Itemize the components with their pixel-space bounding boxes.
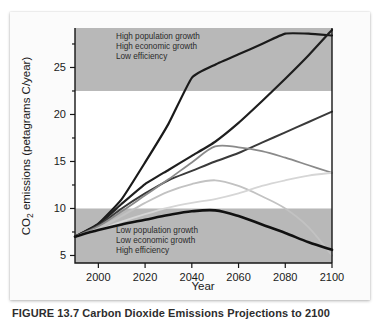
annotation-upper-line-2: High economic growth bbox=[116, 42, 197, 51]
co2-emissions-line-chart: High population growth High economic gro… bbox=[0, 0, 380, 321]
svg-text:CO2 emissions (petagrams C/yea: CO2 emissions (petagrams C/year) bbox=[20, 57, 35, 236]
x-tick-label-2080: 2080 bbox=[273, 271, 297, 283]
annotation-upper-line-1: High population growth bbox=[116, 32, 200, 41]
y-axis-title-prefix: CO bbox=[20, 218, 32, 235]
y-axis-title: CO2 emissions (petagrams C/year) bbox=[20, 57, 35, 236]
y-axis-ticks: 510152025 bbox=[54, 44, 75, 262]
x-axis-title: Year bbox=[191, 280, 214, 292]
annotation-lower-line-1: Low population growth bbox=[116, 226, 198, 235]
x-tick-label-2100: 2100 bbox=[320, 271, 344, 283]
y-axis-title-suffix: emissions (petagrams C/year) bbox=[20, 57, 32, 214]
y-tick-label-25: 25 bbox=[54, 61, 66, 73]
annotation-lower-line-2: Low economic growth bbox=[116, 236, 196, 245]
x-axis-ticks: 200020202040206020802100 bbox=[86, 263, 344, 283]
y-tick-label-20: 20 bbox=[54, 108, 66, 120]
x-tick-label-2020: 2020 bbox=[133, 271, 157, 283]
y-tick-label-5: 5 bbox=[60, 249, 66, 261]
annotation-upper-line-3: Low efficiency bbox=[116, 52, 168, 61]
x-tick-label-2060: 2060 bbox=[226, 271, 250, 283]
x-tick-label-2000: 2000 bbox=[86, 271, 110, 283]
figure-caption: FIGURE 13.7 Carbon Dioxide Emissions Pro… bbox=[12, 307, 368, 319]
y-tick-label-10: 10 bbox=[54, 202, 66, 214]
figure-page: High population growth High economic gro… bbox=[0, 0, 380, 321]
annotation-lower-line-3: High efficiency bbox=[116, 246, 170, 255]
y-tick-label-15: 15 bbox=[54, 155, 66, 167]
high-growth-band bbox=[75, 28, 332, 91]
